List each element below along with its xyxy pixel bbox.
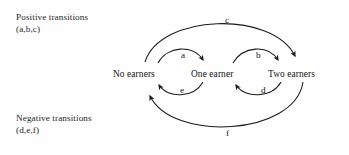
edge-label-e: e <box>180 85 184 95</box>
edge-label-c: c <box>225 15 229 25</box>
edge-label-f: f <box>226 128 229 138</box>
node-two-earners: Two earners <box>268 68 315 80</box>
legend-negative-line2: (d,e,f) <box>16 125 92 137</box>
legend-positive-line2: (a,b,c) <box>16 24 88 36</box>
node-one-earner: One earner <box>191 68 233 80</box>
node-no-earners: No earners <box>113 68 155 80</box>
legend-positive-transitions: Positive transitions (a,b,c) <box>16 12 88 35</box>
edge-arc-f <box>150 82 303 127</box>
edge-arc-c <box>145 24 295 62</box>
edge-arc-d <box>236 82 281 95</box>
edge-label-d: d <box>261 85 266 95</box>
legend-positive-line1: Positive transitions <box>16 12 88 24</box>
transitions-diagram: Positive transitions (a,b,c) Negative tr… <box>0 0 349 155</box>
legend-negative-line1: Negative transitions <box>16 113 92 125</box>
legend-negative-transitions: Negative transitions (d,e,f) <box>16 113 92 136</box>
edge-label-b: b <box>256 50 261 60</box>
edge-label-a: a <box>181 50 185 60</box>
